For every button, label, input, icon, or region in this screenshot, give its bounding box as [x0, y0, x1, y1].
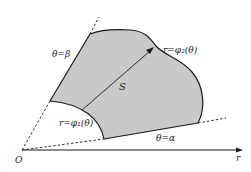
- label-ray-alpha: θ=α: [156, 133, 175, 143]
- label-inner-curve: r=φ₁(θ): [59, 118, 94, 128]
- polar-region-diagram: O r θ=β θ=α r=φ₂(θ) r=φ₁(θ) S: [0, 0, 251, 172]
- label-region-s: S: [119, 81, 126, 92]
- ray-alpha-dashed-outer: [198, 118, 226, 123]
- label-ray-beta: θ=β: [52, 49, 70, 59]
- axis-arrow-icon: [236, 148, 243, 153]
- label-origin: O: [15, 155, 23, 165]
- label-outer-curve: r=φ₂(θ): [163, 45, 198, 55]
- ray-alpha-dashed-inner: [22, 139, 104, 150]
- ray-beta-dashed-inner: [22, 101, 50, 150]
- label-axis-r: r: [236, 153, 241, 163]
